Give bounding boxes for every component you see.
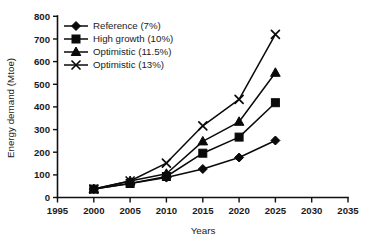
series-line-optimistic-115 bbox=[94, 73, 276, 189]
series-line-optimistic-13 bbox=[94, 34, 276, 189]
legend-entry-optimistic-115[interactable]: Optimistic (11.5%) bbox=[64, 46, 171, 57]
x-tick-labels: 1995 2000 2005 2010 2015 2020 2025 2030 … bbox=[47, 205, 360, 216]
legend-label-high-growth: High growth (10%) bbox=[93, 33, 173, 44]
x-axis-title: Years bbox=[191, 225, 216, 236]
x-tick-label: 2030 bbox=[301, 205, 322, 216]
legend-entry-high-growth[interactable]: High growth (10%) bbox=[64, 33, 173, 44]
x-tick-label: 2025 bbox=[265, 205, 287, 216]
chart-legend: Reference (7%) High growth (10%) Optimis… bbox=[64, 20, 173, 70]
legend-label-optimistic-115: Optimistic (11.5%) bbox=[93, 46, 171, 57]
y-tick-label: 0 bbox=[45, 192, 50, 203]
y-tick-label: 500 bbox=[34, 79, 50, 90]
series-high-growth bbox=[90, 99, 280, 193]
series-line-high-growth bbox=[94, 103, 276, 189]
y-tick-label: 800 bbox=[34, 11, 50, 22]
y-tick-label: 400 bbox=[34, 101, 50, 112]
y-tick-label: 100 bbox=[34, 169, 50, 180]
x-tick-label: 2005 bbox=[119, 205, 141, 216]
x-tick-label: 2010 bbox=[156, 205, 177, 216]
legend-label-optimistic-13: Optimistic (13%) bbox=[93, 59, 164, 70]
legend-label-reference: Reference (7%) bbox=[93, 20, 161, 31]
legend-entry-reference[interactable]: Reference (7%) bbox=[64, 20, 161, 31]
legend-entry-optimistic-13[interactable]: Optimistic (13%) bbox=[64, 59, 164, 70]
y-axis-title: Energy demand (Mtoe) bbox=[5, 58, 16, 158]
x-tick-label: 2020 bbox=[228, 205, 249, 216]
series-markers-high-growth bbox=[90, 99, 280, 193]
y-tick-label: 700 bbox=[34, 34, 50, 45]
y-tick-label: 600 bbox=[34, 56, 50, 67]
x-tick-label: 2035 bbox=[337, 205, 359, 216]
y-tick-label: 300 bbox=[34, 124, 50, 135]
energy-demand-line-chart: 0 100 200 300 400 500 600 700 800 1995 2… bbox=[0, 0, 379, 247]
x-tick-label: 2000 bbox=[83, 205, 104, 216]
x-tick-label: 1995 bbox=[47, 205, 69, 216]
chart-canvas: 0 100 200 300 400 500 600 700 800 1995 2… bbox=[0, 0, 379, 247]
x-tick-label: 2015 bbox=[192, 205, 214, 216]
y-tick-label: 200 bbox=[34, 147, 50, 158]
y-tick-labels: 0 100 200 300 400 500 600 700 800 bbox=[34, 11, 50, 203]
axis-group: 0 100 200 300 400 500 600 700 800 1995 2… bbox=[5, 11, 359, 236]
square-marker-icon bbox=[72, 35, 80, 43]
diamond-marker-icon bbox=[72, 22, 81, 31]
